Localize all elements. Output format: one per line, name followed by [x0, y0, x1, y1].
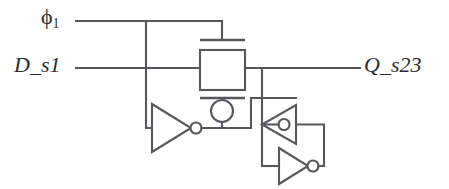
wire-latch-upper-input [296, 125, 324, 167]
pass-transistor-box [200, 50, 245, 90]
label-data-input: D_s1 [14, 54, 60, 76]
gate-inversion-bubble-icon [211, 100, 233, 122]
label-clock-subscript: 1 [53, 16, 60, 31]
circuit-canvas [0, 0, 449, 189]
circuit-schematic: ϕ1 D_s1 Q_s23 [0, 0, 449, 189]
latch-inverter-upper-bubble-icon [279, 119, 290, 130]
label-clock-phi1: ϕ1 [41, 6, 60, 28]
label-data-input-text: D_s1 [14, 52, 60, 77]
latch-inverter-lower-triangle [279, 148, 308, 184]
clock-inverter-triangle [152, 104, 191, 152]
latch-inverter-lower-bubble-icon [308, 161, 319, 172]
label-clock-symbol: ϕ [41, 4, 53, 29]
clock-inverter-bubble-icon [191, 123, 202, 134]
label-data-output: Q_s23 [364, 54, 421, 76]
label-data-output-text: Q_s23 [364, 52, 421, 77]
